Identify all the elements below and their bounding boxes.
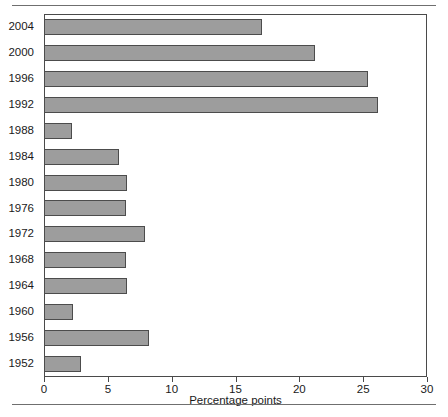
y-axis-tick-label: 1996 [8,66,34,92]
y-axis-tick-label: 1988 [8,118,34,144]
bar-row [44,273,427,299]
y-axis-tick-label: 1956 [8,325,34,351]
top-divider-rule [12,5,436,6]
bar [44,175,127,191]
bar [44,226,145,242]
bar [44,97,378,113]
bars-layer [44,14,427,377]
y-axis-category-labels: 2004200019961992198819841980197619721968… [0,14,40,377]
bar [44,304,73,320]
bar-row [44,221,427,247]
bar [44,330,149,346]
y-axis-tick-label: 1952 [8,351,34,377]
y-axis-tick-label: 2004 [8,14,34,40]
y-axis-tick-label: 1992 [8,92,34,118]
bar-row [44,247,427,273]
y-axis-tick-label: 1960 [8,299,34,325]
x-axis-tick-mark [172,377,173,382]
bar-row [44,118,427,144]
bar [44,71,368,87]
bar-row [44,196,427,222]
bar [44,123,72,139]
bar-row [44,92,427,118]
bottom-divider-rule [12,404,436,405]
bar-row [44,299,427,325]
chart-figure: 2004200019961992198819841980197619721968… [0,0,448,417]
bar [44,19,262,35]
y-axis-tick-label: 1968 [8,247,34,273]
bar-row [44,170,427,196]
bar-row [44,351,427,377]
x-axis-tick-mark [108,377,109,382]
x-axis-tick-mark [427,377,428,382]
bar-row [44,40,427,66]
bar-row [44,325,427,351]
y-axis-tick-label: 1976 [8,196,34,222]
bar-row [44,144,427,170]
bar [44,149,119,165]
y-axis-tick-label: 1972 [8,221,34,247]
bar-row [44,66,427,92]
y-axis-tick-label: 1980 [8,170,34,196]
bar-row [44,14,427,40]
bar [44,278,127,294]
x-axis-tick-mark [236,377,237,382]
y-axis-tick-label: 2000 [8,40,34,66]
bar [44,356,81,372]
bar [44,252,126,268]
x-axis-tick-mark [44,377,45,382]
x-axis-tick-mark [299,377,300,382]
bar [44,200,126,216]
bar [44,45,315,61]
y-axis-tick-label: 1964 [8,273,34,299]
y-axis-tick-label: 1984 [8,144,34,170]
x-axis-tick-mark [363,377,364,382]
